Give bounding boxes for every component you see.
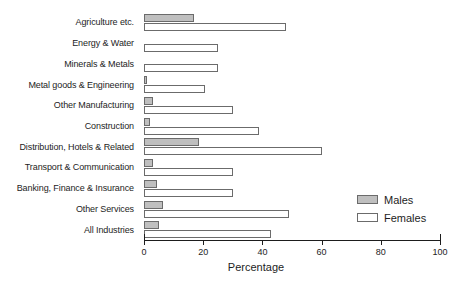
category-label: Other Manufacturing [54, 100, 134, 110]
bar-group [144, 55, 440, 74]
chart-legend: Males Females [357, 192, 452, 228]
bar-females [144, 23, 286, 31]
category-label: Construction [85, 121, 134, 131]
legend-item-females: Females [357, 210, 452, 225]
bar-group [144, 118, 440, 137]
bar-group [144, 97, 440, 116]
bar-males [144, 159, 153, 167]
axis-tick-label: 20 [198, 247, 208, 257]
bar-females [144, 64, 218, 72]
bar-males [144, 14, 194, 22]
category-label: Minerals & Metals [64, 59, 134, 69]
category-label: Energy & Water [72, 38, 134, 48]
bar-males [144, 118, 150, 126]
bar-females [144, 44, 218, 52]
category-label: Distribution, Hotels & Related [19, 142, 134, 152]
category-label: Metal goods & Engineering [28, 80, 134, 90]
axis-tick [203, 241, 204, 245]
x-axis-title: Percentage [0, 261, 458, 273]
legend-swatch-males-icon [357, 195, 378, 204]
bar-males [144, 97, 153, 105]
category-label: All Industries [84, 225, 134, 235]
x-axis-title-text: Percentage [228, 261, 284, 273]
bar-females [144, 230, 271, 238]
bar-females [144, 147, 322, 155]
bar-males [144, 180, 157, 188]
bar-males [144, 201, 163, 209]
bar-group [144, 14, 440, 33]
axis-tick [322, 241, 323, 245]
bar-males [144, 76, 147, 84]
bar-group [144, 35, 440, 54]
bar-males [144, 138, 199, 146]
category-axis: Agriculture etc.Energy & WaterMinerals &… [0, 12, 138, 240]
percentage-bar-chart: Agriculture etc.Energy & WaterMinerals &… [0, 0, 458, 283]
legend-label-females: Females [384, 212, 426, 224]
category-label: Other Services [76, 204, 134, 214]
bar-group [144, 76, 440, 95]
legend-label-males: Males [384, 194, 413, 206]
bar-females [144, 127, 259, 135]
axis-tick [144, 241, 145, 245]
bar-females [144, 168, 233, 176]
axis-tick-label: 100 [432, 247, 447, 257]
category-label: Banking, Finance & Insurance [17, 183, 134, 193]
category-label: Transport & Communication [25, 162, 134, 172]
value-axis-line [144, 240, 440, 241]
bar-group [144, 138, 440, 157]
bar-females [144, 106, 233, 114]
bar-males [144, 221, 159, 229]
value-axis-left-cap [144, 234, 145, 241]
legend-item-males: Males [357, 192, 452, 207]
axis-tick [262, 241, 263, 245]
value-axis-right-cap [440, 234, 441, 241]
axis-tick-label: 0 [141, 247, 146, 257]
axis-tick [440, 241, 441, 245]
category-label: Agriculture etc. [76, 17, 134, 27]
legend-swatch-females-icon [357, 213, 378, 222]
bar-females [144, 210, 289, 218]
axis-tick-label: 40 [257, 247, 267, 257]
axis-tick-label: 80 [376, 247, 386, 257]
bar-females [144, 85, 205, 93]
bar-females [144, 189, 233, 197]
bar-group [144, 159, 440, 178]
axis-tick [381, 241, 382, 245]
axis-tick-label: 60 [317, 247, 327, 257]
